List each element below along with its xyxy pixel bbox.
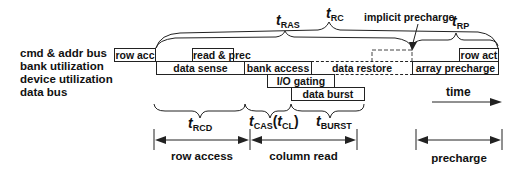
t-cas-label: tCAS(tCL) <box>249 113 299 131</box>
row-acc-box: row acc <box>114 48 156 62</box>
precharge-arrow-left <box>417 136 428 144</box>
time-label: time <box>446 86 471 99</box>
column-read-arrow-right <box>345 136 356 144</box>
implicit-precharge-label: implicit precharge <box>364 11 454 24</box>
t-rp-label: tRP <box>452 13 469 31</box>
row-access-arrow-left <box>155 136 166 144</box>
read-prec-box: read & prec <box>192 48 234 62</box>
bank-access-box: bank access <box>244 61 312 75</box>
data-restore-box: data restore <box>311 61 413 75</box>
phase-precharge: precharge <box>416 152 502 164</box>
phase-row-access: row access <box>154 150 250 162</box>
t-burst-label: tBURST <box>316 113 352 131</box>
row-act-box: row act <box>459 48 499 62</box>
t-ras-brace <box>156 31 412 48</box>
array-precharge-box: array precharge <box>412 61 499 75</box>
row-access-arrow-right <box>238 136 249 144</box>
phase-column-read: column read <box>250 150 357 162</box>
t-rp-brace <box>412 33 498 46</box>
t-ras-label: tRAS <box>276 12 300 30</box>
t-rc-brace <box>156 22 498 48</box>
t-rcd-label: tRCD <box>188 115 212 133</box>
time-arrow-head <box>490 98 502 106</box>
data-sense-box: data sense <box>156 61 245 75</box>
precharge-arrow-right <box>490 136 501 144</box>
data-burst-box: data burst <box>291 87 365 101</box>
t-rc-label: tRC <box>326 5 344 23</box>
io-gating-box: I/O gating <box>267 74 335 88</box>
implicit-precharge-arrow <box>413 24 418 43</box>
column-read-arrow-left <box>251 136 262 144</box>
